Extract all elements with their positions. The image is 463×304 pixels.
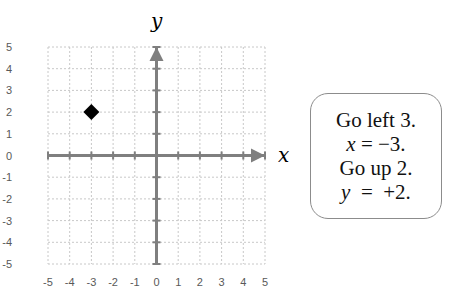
- y-tick-label: -2: [2, 193, 12, 205]
- x-tick-label: -5: [43, 276, 53, 288]
- x-tick-label: 2: [197, 276, 203, 288]
- y-tick-label: 5: [6, 41, 12, 53]
- x-tick-label: -1: [130, 276, 140, 288]
- instruction-callout: Go left 3. x = −3. Go up 2. y = +2.: [310, 93, 442, 219]
- x-tick-label: 0: [153, 276, 159, 288]
- x-tick-label: -3: [87, 276, 97, 288]
- y-tick-label: 1: [6, 128, 12, 140]
- y-tick-label: -1: [2, 171, 12, 183]
- y-tick-label: 2: [6, 106, 12, 118]
- y-tick-label: 0: [6, 150, 12, 162]
- x-tick-label: 4: [240, 276, 246, 288]
- y-tick-label: 4: [6, 63, 12, 75]
- x-axis-label: x: [278, 143, 289, 167]
- callout-line-2: x = −3.: [346, 132, 405, 156]
- x-tick-label: 1: [175, 276, 181, 288]
- x-tick-label: 5: [262, 276, 268, 288]
- x-tick-label: -2: [108, 276, 118, 288]
- y-axis-arrow-icon: [150, 47, 164, 61]
- y-tick-label: -5: [2, 258, 12, 270]
- axes: [48, 47, 265, 264]
- x-tick-label: -4: [65, 276, 75, 288]
- diamond-marker-icon: [83, 104, 99, 120]
- y-tick-label: -4: [2, 236, 12, 248]
- y-tick-label: 3: [6, 84, 12, 96]
- x-tick-label: 3: [219, 276, 225, 288]
- coordinate-plane: -5-4-3-2-1012345543210-1-2-3-4-5 x y: [0, 0, 300, 304]
- y-tick-label: -3: [2, 215, 12, 227]
- x-axis-arrow-icon: [251, 149, 265, 163]
- callout-line-1: Go left 3.: [336, 108, 416, 132]
- y-axis-label: y: [150, 9, 163, 33]
- callout-line-3: Go up 2.: [340, 156, 413, 180]
- data-points: [83, 104, 99, 120]
- callout-line-4: y = +2.: [341, 180, 411, 204]
- x-variable: x: [346, 132, 355, 156]
